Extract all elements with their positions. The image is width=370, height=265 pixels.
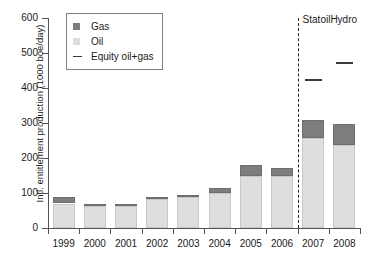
bar-segment-oil: [146, 199, 168, 228]
y-tick: [42, 53, 48, 54]
y-tick: [42, 158, 48, 159]
bar-segment-gas: [302, 120, 324, 138]
legend-label-equity: Equity oil+gas: [91, 51, 154, 62]
y-tick-label: 500: [0, 48, 38, 58]
bar-segment-gas: [333, 124, 355, 144]
x-tick: [110, 229, 111, 234]
x-tick: [266, 229, 267, 234]
y-axis-line: [48, 18, 49, 229]
x-tick: [204, 229, 205, 234]
bar-segment-oil: [333, 145, 355, 228]
x-tick: [235, 229, 236, 234]
bar-segment-gas: [240, 165, 262, 176]
x-tick: [79, 229, 80, 234]
bar-2003: [177, 18, 199, 228]
bar-segment-oil: [271, 176, 293, 228]
bar-segment-oil: [177, 197, 199, 229]
bar-segment-oil: [115, 206, 137, 228]
y-tick: [42, 18, 48, 19]
x-tick-label: 2008: [324, 238, 364, 250]
bar-segment-oil: [302, 138, 324, 228]
equity-marker-2007: [305, 79, 322, 81]
legend-label-gas: Gas: [91, 21, 109, 32]
chart-legend: Gas Oil Equity oil+gas: [66, 13, 163, 70]
equity-line-icon: [73, 56, 86, 58]
legend-item-gas: Gas: [73, 19, 154, 34]
y-tick-label: 600: [0, 13, 38, 23]
bar-segment-oil: [209, 193, 231, 228]
y-tick-label: 100: [0, 188, 38, 198]
statoilhydro-divider: [298, 18, 299, 228]
bar-segment-oil: [53, 204, 75, 229]
y-tick: [42, 193, 48, 194]
y-tick-label: 0: [0, 223, 38, 233]
bar-segment-gas: [177, 195, 199, 197]
bar-segment-gas: [209, 188, 231, 193]
bar-2008: [333, 18, 355, 228]
equity-marker-2008: [336, 62, 353, 64]
x-tick: [329, 229, 330, 234]
bar-segment-gas: [53, 197, 75, 203]
bar-2005: [240, 18, 262, 228]
legend-label-oil: Oil: [91, 36, 103, 47]
legend-item-equity: Equity oil+gas: [73, 49, 154, 64]
bar-segment-oil: [240, 176, 262, 229]
gas-swatch-icon: [73, 23, 86, 30]
bar-segment-gas: [115, 204, 137, 206]
x-tick: [173, 229, 174, 234]
chart-container: Intl. entitlement production (1000 boe/d…: [0, 0, 370, 265]
bar-2004: [209, 18, 231, 228]
x-tick: [48, 229, 49, 234]
bar-2007: [302, 18, 324, 228]
bar-segment-oil: [84, 206, 106, 228]
y-tick-label: 200: [0, 153, 38, 163]
y-tick-label: 400: [0, 83, 38, 93]
y-tick-label: 300: [0, 118, 38, 128]
x-tick: [298, 229, 299, 234]
bar-segment-gas: [84, 204, 106, 206]
x-tick: [360, 229, 361, 234]
y-tick: [42, 123, 48, 124]
statoilhydro-label: StatoilHydro: [303, 14, 357, 25]
bar-segment-gas: [146, 197, 168, 199]
y-tick: [42, 88, 48, 89]
bar-2006: [271, 18, 293, 228]
x-tick: [142, 229, 143, 234]
oil-swatch-icon: [73, 38, 86, 45]
bar-segment-gas: [271, 168, 293, 176]
legend-item-oil: Oil: [73, 34, 154, 49]
